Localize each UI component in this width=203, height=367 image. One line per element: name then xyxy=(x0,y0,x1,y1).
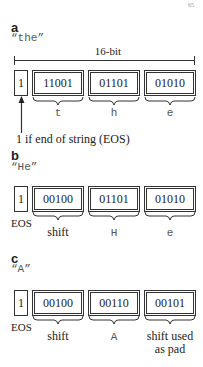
char-label-t: t xyxy=(32,107,84,119)
panel-b-string: “He” xyxy=(11,161,37,173)
eos-label: EOS xyxy=(11,321,32,334)
code-box-e: 01010 xyxy=(144,186,196,212)
char-label-as-pad: as pad xyxy=(140,343,200,356)
char-label-shift: shift xyxy=(32,226,84,239)
code-box-h: 01101 xyxy=(88,70,140,96)
code-box-H: 01101 xyxy=(88,186,140,212)
eos-bit-box: 1 xyxy=(14,186,28,212)
code-box-shift: 00100 xyxy=(32,290,84,316)
code-box-A: 00110 xyxy=(88,290,140,316)
char-label-e: e xyxy=(144,107,196,119)
char-label-h: h xyxy=(88,107,140,119)
panel-c-string: “A” xyxy=(11,263,31,275)
eos-bit-box: 1 xyxy=(14,290,28,316)
eos-label: EOS xyxy=(11,217,32,230)
code-box-pad: 00101 xyxy=(144,290,196,316)
eos-bit-box: 1 xyxy=(14,70,28,96)
char-label-e: e xyxy=(144,227,196,239)
code-box-shift: 00100 xyxy=(32,186,84,212)
char-label-A: A xyxy=(88,331,140,343)
eos-annotation: 1 if end of string (EOS) xyxy=(16,133,130,146)
char-label-H: H xyxy=(88,227,140,239)
code-box-t: 11001 xyxy=(32,70,84,96)
char-label-shift: shift xyxy=(32,330,84,343)
code-box-e: 01010 xyxy=(144,70,196,96)
